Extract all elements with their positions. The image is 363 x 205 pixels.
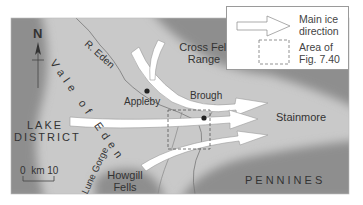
legend-ice-direction-label: Main ice direction [299, 13, 339, 37]
brough-label: Brough [190, 90, 222, 102]
legend-dashed-rect-icon [259, 40, 289, 64]
scale-label: 0 km 10 [20, 165, 58, 177]
appleby-dot [144, 88, 149, 93]
legend: Main ice direction Area of Fig. 7.40 [226, 6, 349, 70]
ice-direction-map: N Vale of Eden R. Eden Cross Fell Range … [0, 0, 363, 205]
legend-arrow-icon [237, 16, 290, 36]
lake-district-label: LAKE DISTRICT [14, 119, 76, 143]
brough-dot [201, 115, 206, 120]
stainmore-label: Stainmore [276, 111, 326, 123]
north-label: N [33, 28, 42, 40]
legend-area-label: Area of Fig. 7.40 [299, 41, 340, 65]
pennines-label: PENNINES [245, 174, 325, 186]
howgill-fells-label: Howgill Fells [103, 169, 147, 193]
appleby-label: Appleby [124, 96, 160, 108]
